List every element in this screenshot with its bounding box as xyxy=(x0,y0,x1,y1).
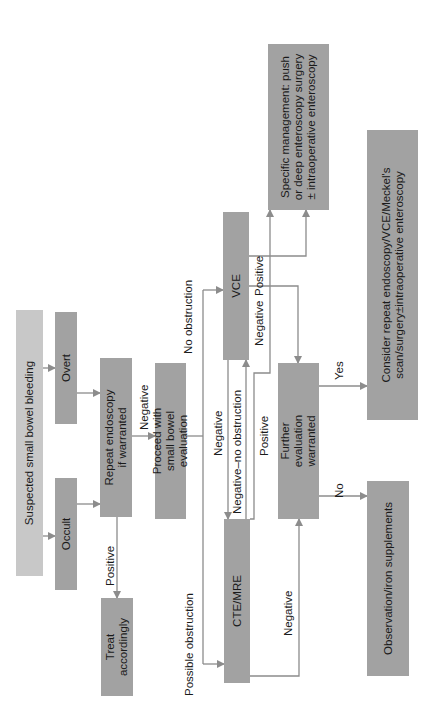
label-positive-repeat: Positive xyxy=(104,546,117,586)
label-yes: Yes xyxy=(333,361,346,380)
label-positive-cte: Positive xyxy=(258,416,271,456)
node-treat-accordingly: Treat accordingly xyxy=(101,598,133,696)
label-negative-no-obstruction: Negative–no obstruction xyxy=(231,390,244,514)
node-suspected-small-bowel-bleeding: Suspected small bowel bleeding xyxy=(16,310,43,576)
flowchart: Suspected small bowel bleeding Overt Occ… xyxy=(0,0,427,726)
label-negative-vce-to-cte: Negative xyxy=(212,411,225,456)
label-positive-vce: Positive xyxy=(253,256,266,296)
node-repeat-endoscopy: Repeat endoscopy if warranted xyxy=(100,358,132,517)
label-no: No xyxy=(333,483,346,498)
node-specific-management: Specific management: push or deep entero… xyxy=(268,44,329,210)
node-consider-repeat: Consider repeat endoscopy/VCE/Meckel's s… xyxy=(367,130,418,420)
node-vce: VCE xyxy=(223,212,249,360)
node-occult: Occult xyxy=(55,478,77,590)
label-negative-vce: Negative xyxy=(253,301,266,346)
node-further-evaluation: Further evaluation warranted xyxy=(278,363,319,519)
node-proceed-small-bowel-evaluation: Proceed with small bowel evaluation xyxy=(155,363,186,519)
node-overt: Overt xyxy=(55,312,77,424)
node-observation-iron: Observation/iron supplements xyxy=(367,481,409,676)
label-negative-repeat: Negative xyxy=(138,385,151,430)
label-negative-cte: Negative xyxy=(282,591,295,636)
label-no-obstruction: No obstruction xyxy=(182,280,195,354)
node-cte-mre: CTE/MRE xyxy=(224,519,250,683)
label-possible-obstruction: Possible obstruction xyxy=(183,593,196,696)
